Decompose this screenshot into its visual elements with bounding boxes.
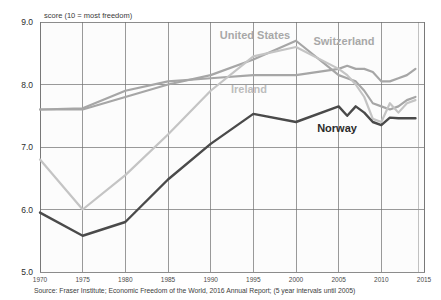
y-tick-label: 8.0	[21, 80, 33, 90]
chart-canvas: 5.06.07.08.09.0 197019751980198519901995…	[0, 0, 441, 300]
y-tick-label: 9.0	[21, 17, 33, 27]
series-label-ireland: Ireland	[231, 83, 267, 95]
x-tick-label: 1990	[203, 276, 218, 283]
x-tick-label: 1980	[118, 276, 133, 283]
x-tick-label: 1985	[161, 276, 176, 283]
series-label-united-states: United States	[220, 29, 290, 41]
x-axis-ticks: 1970197519801985199019952000200520102015	[33, 276, 432, 283]
x-tick-label: 1970	[33, 276, 48, 283]
series-label-norway: Norway	[317, 122, 358, 134]
y-axis-caption: score (10 = most freedom)	[44, 11, 133, 20]
y-tick-label: 7.0	[21, 142, 33, 152]
economic-freedom-line-chart: 5.06.07.08.09.0 197019751980198519901995…	[0, 0, 441, 300]
x-tick-label: 1995	[246, 276, 261, 283]
x-tick-label: 1975	[75, 276, 90, 283]
source-note: Source: Fraser Institute; Economic Freed…	[34, 287, 355, 295]
x-tick-label: 2010	[374, 276, 389, 283]
y-tick-label: 5.0	[21, 267, 33, 277]
y-axis-ticks: 5.06.07.08.09.0	[21, 17, 33, 277]
x-tick-label: 2015	[417, 276, 432, 283]
x-tick-label: 2000	[289, 276, 304, 283]
y-tick-label: 6.0	[21, 205, 33, 215]
x-tick-label: 2005	[331, 276, 346, 283]
series-label-switzerland: Switzerland	[313, 35, 374, 47]
